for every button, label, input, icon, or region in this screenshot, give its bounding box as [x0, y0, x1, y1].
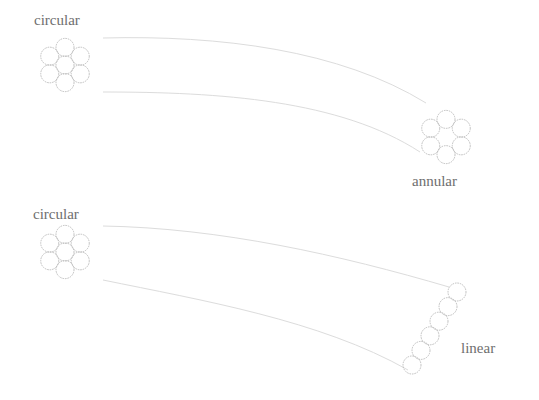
fiber-circle	[403, 356, 421, 374]
connector-curve-bottom-0	[103, 226, 449, 287]
fiber-circle	[430, 312, 448, 330]
circle-clusters	[41, 38, 471, 374]
fiber-circle	[71, 234, 89, 252]
cluster-bottom-source-hexagonal-7	[41, 225, 90, 278]
label-linear: linear	[461, 340, 495, 356]
fiber-circle	[71, 47, 89, 65]
label-annular: annular	[412, 173, 457, 189]
fiber-circle	[421, 327, 439, 345]
label-circular-bottom: circular	[33, 206, 79, 222]
connector-curve-top-0	[103, 38, 426, 103]
connector-curve-top-1	[103, 92, 420, 152]
fiber-circle	[412, 341, 430, 359]
fiber-circle	[439, 298, 457, 316]
fiber-circle	[452, 119, 470, 137]
label-circular-top: circular	[34, 12, 80, 28]
fiber-circle	[448, 283, 466, 301]
connector-curves	[103, 38, 449, 370]
cluster-top-source-hexagonal-7	[41, 38, 90, 91]
fiber-arrangement-diagram: circular annular circular linear	[0, 0, 539, 400]
cluster-top-target-ring-6	[422, 110, 471, 163]
connector-curve-bottom-1	[103, 280, 408, 370]
cluster-bottom-target-line-6	[403, 283, 466, 374]
